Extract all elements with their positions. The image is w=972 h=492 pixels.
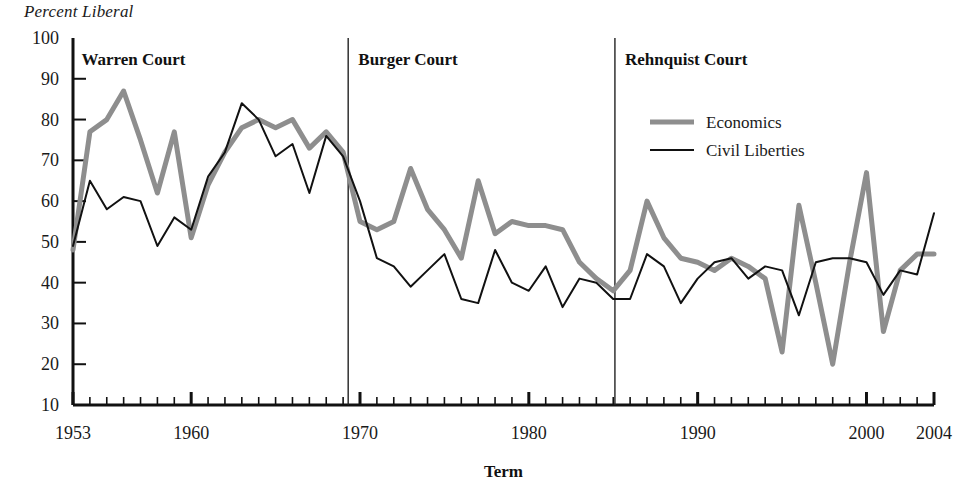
x-tick-label: 1980 (511, 423, 547, 443)
y-tick-label: 50 (41, 232, 59, 252)
y-tick-label: 90 (41, 69, 59, 89)
court-era-label: Burger Court (358, 50, 458, 69)
x-tick-label: 2004 (916, 423, 952, 443)
y-tick-label: 30 (41, 313, 59, 333)
court-era-label: Rehnquist Court (625, 50, 748, 69)
y-tick-label: 10 (41, 395, 59, 415)
x-tick-label: 1970 (342, 423, 378, 443)
x-tick-label: 1953 (55, 423, 91, 443)
x-tick-label: 1960 (173, 423, 209, 443)
y-tick-label: 70 (41, 150, 59, 170)
y-tick-label: 20 (41, 354, 59, 374)
y-tick-label: 100 (32, 28, 59, 48)
legend-label-2: Civil Liberties (706, 141, 805, 160)
legend-label-1: Economics (706, 113, 782, 132)
y-tick-label: 40 (41, 273, 59, 293)
x-tick-label: 2000 (848, 423, 884, 443)
y-tick-label: 60 (41, 191, 59, 211)
line-chart-plot: 1020304050607080901001953196019701980199… (0, 0, 972, 492)
chart-figure: Percent Liberal 102030405060708090100195… (0, 0, 972, 492)
y-tick-label: 80 (41, 110, 59, 130)
series-line-economics (73, 91, 934, 364)
x-tick-label: 1990 (680, 423, 716, 443)
x-axis-title: Term (484, 462, 523, 481)
court-era-label: Warren Court (81, 50, 185, 69)
